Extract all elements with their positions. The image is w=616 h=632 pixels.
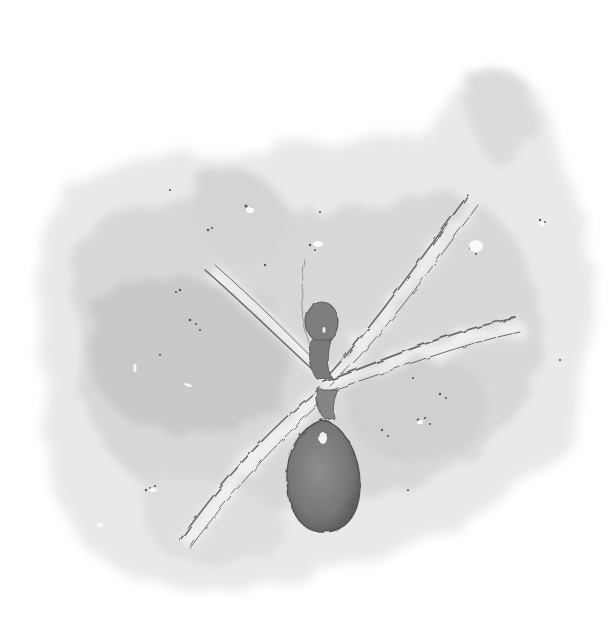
watercolor-spider-painting: Grayscale watercolor painting of a spide… <box>0 0 616 632</box>
head-highlight <box>323 327 326 333</box>
painting-svg <box>0 0 616 632</box>
spider-head <box>306 302 338 342</box>
abdomen-highlight <box>319 432 327 444</box>
